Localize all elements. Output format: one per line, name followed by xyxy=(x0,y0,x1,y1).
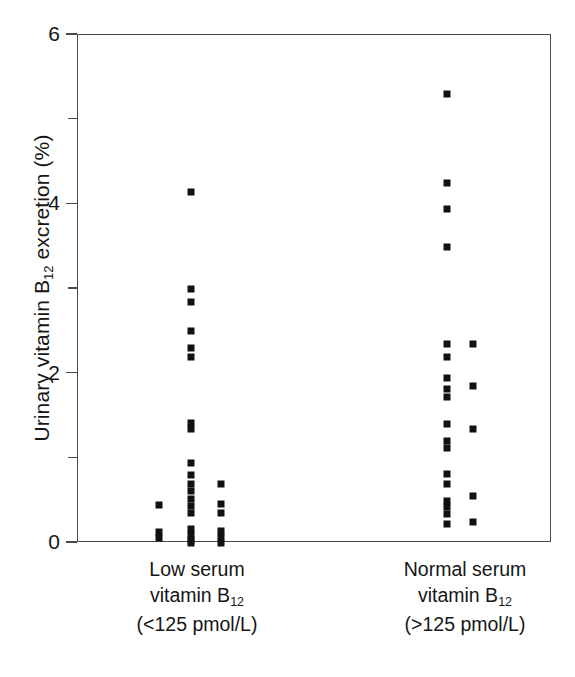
y-tick-major xyxy=(66,372,77,374)
data-point xyxy=(188,459,195,466)
data-point xyxy=(156,501,163,508)
data-point xyxy=(444,205,451,212)
data-point xyxy=(218,480,225,487)
data-point xyxy=(218,501,225,508)
dot-plot-figure: Urinary vitamin B12 excretion (%) 0246 L… xyxy=(0,0,575,677)
data-point xyxy=(188,502,195,509)
y-tick-minor xyxy=(68,457,77,459)
data-point xyxy=(444,180,451,187)
plot-area xyxy=(77,34,551,542)
data-point xyxy=(470,341,477,348)
data-point xyxy=(188,188,195,195)
data-point xyxy=(156,534,163,541)
data-point xyxy=(218,540,225,547)
data-point xyxy=(444,511,451,518)
data-point xyxy=(444,353,451,360)
x-axis-group-label-normal: Normal serum vitamin B12 (>125 pmol/L) xyxy=(360,556,570,637)
data-point xyxy=(444,521,451,528)
y-tick-major xyxy=(66,203,77,205)
data-point xyxy=(218,509,225,516)
x-axis-group-label-low: Low serum vitamin B12 (<125 pmol/L) xyxy=(92,556,302,637)
data-point xyxy=(444,394,451,401)
data-point xyxy=(470,518,477,525)
y-axis-title: Urinary vitamin B12 excretion (%) xyxy=(22,34,62,542)
data-point xyxy=(188,298,195,305)
group-label-line3: (>125 pmol/L) xyxy=(360,611,570,637)
group-label-line2: vitamin B12 xyxy=(360,582,570,611)
group-label-line1: Low serum xyxy=(92,556,302,582)
group-label-line2: vitamin B12 xyxy=(92,582,302,611)
data-point xyxy=(444,374,451,381)
group-label-line1: Normal serum xyxy=(360,556,570,582)
data-point xyxy=(188,328,195,335)
data-point xyxy=(188,286,195,293)
y-tick-minor xyxy=(68,118,77,120)
data-point xyxy=(188,353,195,360)
data-point xyxy=(188,425,195,432)
y-tick-major xyxy=(66,541,77,543)
data-point xyxy=(188,510,195,517)
data-point xyxy=(444,385,451,392)
data-point xyxy=(188,472,195,479)
data-point xyxy=(444,480,451,487)
group-label-line3: (<125 pmol/L) xyxy=(92,611,302,637)
data-point xyxy=(444,341,451,348)
data-point xyxy=(444,91,451,98)
data-point xyxy=(444,470,451,477)
data-point xyxy=(444,445,451,452)
data-point xyxy=(188,345,195,352)
data-point xyxy=(470,493,477,500)
data-point xyxy=(470,383,477,390)
y-tick-major xyxy=(66,33,77,35)
data-point xyxy=(188,540,195,547)
data-point xyxy=(444,243,451,250)
data-point xyxy=(444,421,451,428)
data-point xyxy=(188,487,195,494)
data-point xyxy=(470,425,477,432)
y-tick-minor xyxy=(68,287,77,289)
y-axis-title-text: Urinary vitamin B12 excretion (%) xyxy=(30,135,54,442)
